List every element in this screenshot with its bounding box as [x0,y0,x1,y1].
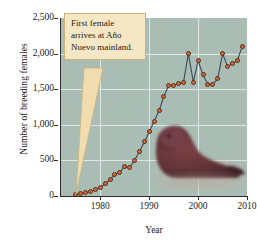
callout-line-2: arrives at Año [71,30,140,42]
y-axis-line [60,18,61,197]
x-tick-label-2000: 2000 [176,201,220,211]
data-point [196,58,201,63]
y-tick-label-0: 0 [10,191,54,201]
data-point [230,61,235,66]
x-tick-label-1990: 1990 [127,201,171,211]
data-point [186,51,191,56]
data-point [201,72,206,77]
x-tick-mark-2010 [247,196,248,200]
data-point [98,185,103,190]
callout-line-3: Nuevo mainland. [71,42,140,54]
data-point [132,158,137,163]
callout-line-1: First female [71,18,140,30]
y-tick-mark-2500 [54,18,58,19]
data-point [191,80,196,85]
data-point [152,119,157,124]
data-point [225,64,230,69]
y-tick-mark-500 [54,160,58,161]
data-point [235,58,240,63]
data-point [181,80,186,85]
first-female-callout: First female arrives at Año Nuevo mainla… [64,13,146,60]
figure-root: Number of breeding females 0 500 1,000 1… [0,0,257,242]
y-tick-label-500: 500 [10,156,54,166]
x-tick-label-1980: 1980 [78,201,122,211]
y-tick-label-1000: 1,000 [10,120,54,130]
x-tick-mark-2000 [198,196,199,200]
data-point [240,44,245,49]
series-line [76,46,243,194]
y-tick-mark-1500 [54,89,58,90]
x-tick-label-2010: 2010 [225,201,257,211]
y-tick-mark-2000 [54,54,58,55]
y-axis-ticks: 0 500 1,000 1,500 2,000 2,500 [8,0,54,242]
y-tick-mark-0 [54,196,58,197]
x-axis-line [60,196,247,197]
data-point [108,177,113,182]
x-tick-mark-1980 [100,196,101,200]
x-axis-title: Year [61,225,247,235]
y-tick-mark-1000 [54,125,58,126]
x-tick-mark-1990 [149,196,150,200]
y-tick-label-2000: 2,000 [10,49,54,59]
data-point [157,108,162,113]
y-tick-label-2500: 2,500 [10,13,54,23]
y-tick-label-1500: 1,500 [10,84,54,94]
